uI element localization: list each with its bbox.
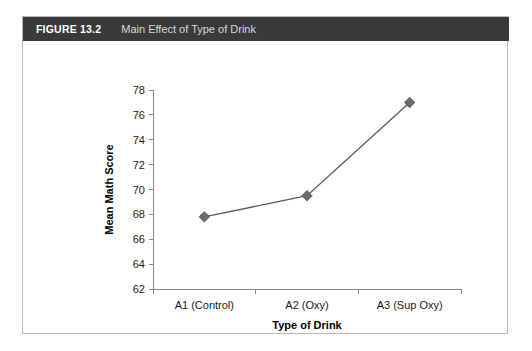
- x-tick-label: A2 (Oxy): [285, 299, 328, 311]
- figure-header-bar: FIGURE 13.2 Main Effect of Type of Drink: [23, 17, 509, 41]
- figure-number-label: FIGURE 13.2: [36, 23, 101, 35]
- y-axis-title: Mean Math Score: [103, 144, 115, 234]
- data-point-marker: [199, 212, 209, 222]
- y-tick-label: 76: [133, 109, 145, 121]
- figure-caption: Main Effect of Type of Drink: [121, 23, 256, 35]
- y-tick-label: 70: [133, 184, 145, 196]
- chart-plot-area: 626466687072747678A1 (Control)A2 (Oxy)A3…: [23, 41, 509, 334]
- y-tick-label: 68: [133, 208, 145, 220]
- figure-container: FIGURE 13.2 Main Effect of Type of Drink…: [22, 16, 508, 334]
- x-tick-label: A3 (Sup Oxy): [377, 299, 443, 311]
- y-tick-label: 66: [133, 233, 145, 245]
- y-tick-label: 62: [133, 283, 145, 295]
- line-chart: 626466687072747678A1 (Control)A2 (Oxy)A3…: [23, 41, 509, 334]
- x-axis-title: Type of Drink: [272, 319, 342, 331]
- y-tick-label: 64: [133, 258, 145, 270]
- x-tick-label: A1 (Control): [175, 299, 234, 311]
- y-tick-label: 74: [133, 134, 145, 146]
- y-tick-label: 78: [133, 84, 145, 96]
- y-tick-label: 72: [133, 159, 145, 171]
